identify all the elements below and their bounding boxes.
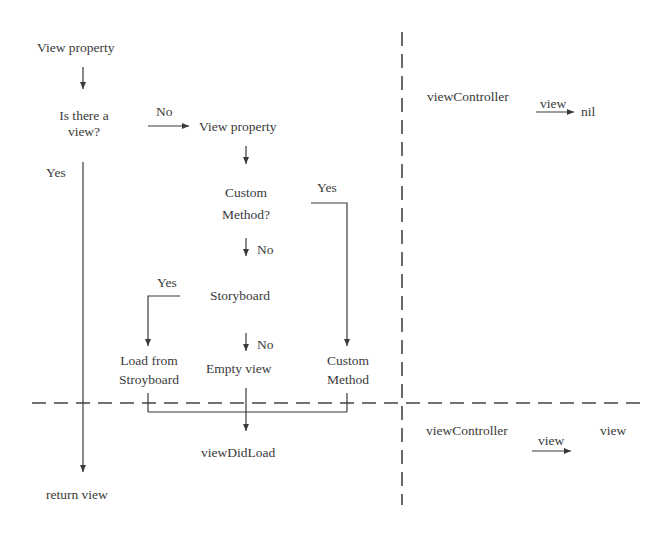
yes-label-2: Yes — [317, 180, 337, 196]
view-did-load: viewDidLoad — [201, 445, 275, 461]
load-from-line-2: Stroyboard — [108, 370, 190, 389]
custom-method-line-2: Method — [317, 370, 379, 389]
custom-method-box: Custom Method — [317, 351, 379, 389]
decision-line-1: Is there a — [44, 108, 124, 124]
custom-method-q-line-1: Custom — [206, 182, 286, 204]
state-top-target: nil — [581, 104, 595, 120]
decision-line-2: view? — [44, 124, 124, 140]
return-view: return view — [46, 487, 108, 503]
decision-custom-method: Custom Method? — [206, 182, 286, 226]
state-bottom-controller: viewController — [426, 423, 508, 439]
custom-method-line-1: Custom — [317, 351, 379, 370]
no-label-2: No — [257, 242, 274, 258]
custom-method-q-line-2: Method? — [206, 204, 286, 226]
state-top-arrow-label: view — [540, 96, 566, 112]
storyboard-decision: Storyboard — [210, 288, 270, 304]
start-view-property: View property — [37, 40, 115, 56]
diagram-lines — [0, 0, 670, 534]
decision-is-there-view: Is there a view? — [44, 108, 124, 140]
empty-view: Empty view — [206, 361, 272, 377]
state-bottom-target: view — [600, 423, 626, 439]
load-from-line-1: Load from — [108, 351, 190, 370]
yes-label-3: Yes — [157, 275, 177, 291]
load-from-storyboard: Load from Stroyboard — [108, 351, 190, 389]
view-property-2: View property — [199, 119, 277, 135]
no-label-3: No — [257, 337, 274, 353]
yes-label-1: Yes — [46, 165, 66, 181]
state-top-controller: viewController — [427, 89, 509, 105]
state-bottom-arrow-label: view — [538, 433, 564, 449]
no-label-1: No — [156, 104, 173, 120]
